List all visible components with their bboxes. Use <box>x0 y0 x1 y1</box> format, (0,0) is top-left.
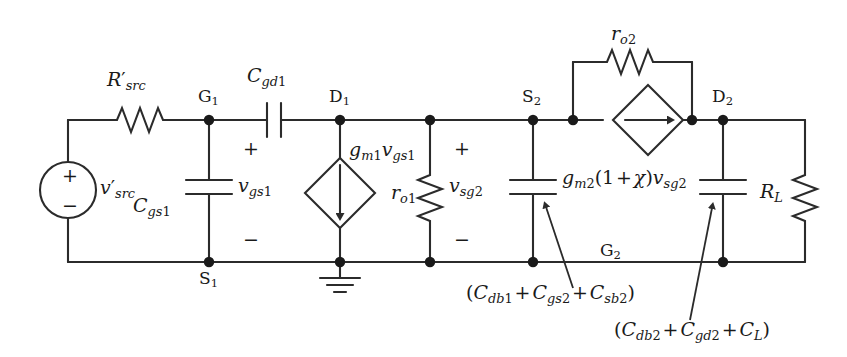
resistor-rsrc <box>110 108 209 132</box>
label-r-l: RL <box>760 182 783 205</box>
node-label-g2: G2 <box>600 242 621 262</box>
label-c-gd1: Cgd1 <box>247 66 286 89</box>
circuit-wires <box>40 50 817 292</box>
node-dot-d2 <box>718 115 728 125</box>
source-polarity-plus: + <box>62 166 78 185</box>
resistor-ro1 <box>418 168 442 228</box>
node-dot-ro1-bottom <box>425 257 435 267</box>
vsg2-plus: + <box>454 139 470 158</box>
vgs1-minus: − <box>243 230 259 249</box>
circuit-diagram-figure: R′src v′src + − G1 Cgs1 Cgd1 + vgs1 − D1… <box>0 0 847 357</box>
node-label-g1: G1 <box>198 88 219 108</box>
node-dot-ro2-right <box>687 115 697 125</box>
label-gm2-term: gm2(1 + χ)vsg2 <box>562 168 687 191</box>
node-label-d2: D2 <box>712 88 733 108</box>
label-cap-group-1: (Cdb1 + Cgs2 + Csb2) <box>466 283 635 306</box>
label-v-sg2: vsg2 <box>449 176 483 199</box>
leader-capgroup2 <box>690 208 712 320</box>
label-r-o1: ro1 <box>391 183 416 206</box>
node-dot-g2-left <box>528 257 538 267</box>
label-r-o2: ro2 <box>611 24 636 47</box>
label-gm1-vgs1: gm1vgs1 <box>349 140 415 163</box>
node-label-s1: S1 <box>199 270 218 290</box>
node-dot-ro2-left <box>568 115 578 125</box>
resistor-rl <box>793 168 817 228</box>
node-dot-g1 <box>204 115 214 125</box>
node-dot-ground <box>335 257 345 267</box>
node-dot-s1 <box>204 257 214 267</box>
vsg2-minus: − <box>454 230 470 249</box>
node-dot-d1 <box>335 115 345 125</box>
vgs1-plus: + <box>243 139 259 158</box>
node-label-s2: S2 <box>522 88 541 108</box>
label-v-gs1: vgs1 <box>238 176 272 199</box>
label-r-src: R′src <box>107 70 146 93</box>
label-c-gs1: Cgs1 <box>133 196 171 219</box>
resistor-ro2 <box>573 50 692 74</box>
label-v-src: v′src <box>100 178 135 201</box>
source-polarity-minus: − <box>62 196 78 215</box>
node-dot-g2-right <box>718 257 728 267</box>
node-label-d1: D1 <box>329 88 350 108</box>
label-cap-group-2: (Cdb2 + Cgd2 + CL) <box>614 320 770 343</box>
leader-capgroup1 <box>546 207 573 288</box>
node-dot-ro1-top <box>425 115 435 125</box>
node-dot-s2 <box>528 115 538 125</box>
